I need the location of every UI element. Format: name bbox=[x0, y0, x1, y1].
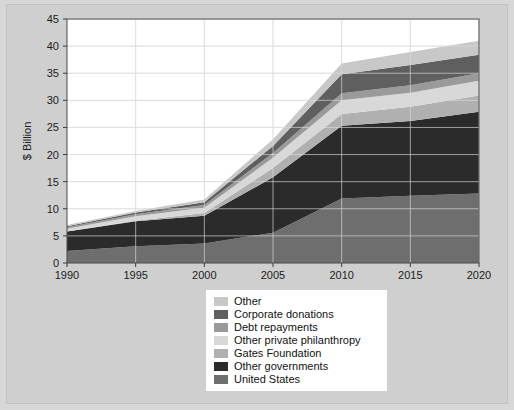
legend-item-label: Corporate donations bbox=[234, 308, 334, 321]
x-tick-label: 2005 bbox=[261, 269, 285, 281]
chart-area: 1990199520002005201020152020 05101520253… bbox=[7, 5, 509, 295]
legend-item-label: Other bbox=[234, 295, 262, 308]
legend-item-label: United States bbox=[234, 373, 300, 386]
legend-item-label: Gates Foundation bbox=[234, 347, 321, 360]
legend-item: Other bbox=[214, 295, 381, 308]
legend-item: United States bbox=[214, 373, 381, 386]
y-tick-label: 20 bbox=[47, 149, 59, 161]
y-tick-label: 25 bbox=[47, 121, 59, 133]
legend-item: Debt repayments bbox=[214, 321, 381, 334]
legend-item: Gates Foundation bbox=[214, 347, 381, 360]
y-tick-label: 15 bbox=[47, 176, 59, 188]
y-tick-label: 45 bbox=[47, 13, 59, 25]
y-tick-label: 0 bbox=[53, 257, 59, 269]
legend-item-label: Other private philanthropy bbox=[234, 334, 361, 347]
y-tick-label: 30 bbox=[47, 94, 59, 106]
x-tick-label: 1995 bbox=[123, 269, 147, 281]
x-axis-ticks: 1990199520002005201020152020 bbox=[55, 263, 491, 281]
legend-swatch-icon bbox=[214, 297, 228, 306]
y-tick-label: 5 bbox=[53, 230, 59, 242]
y-tick-label: 10 bbox=[47, 203, 59, 215]
legend-item-label: Other governments bbox=[234, 360, 328, 373]
x-tick-label: 2010 bbox=[329, 269, 353, 281]
legend-item-label: Debt repayments bbox=[234, 321, 318, 334]
x-tick-label: 1990 bbox=[55, 269, 79, 281]
x-tick-label: 2000 bbox=[192, 269, 216, 281]
legend-item: Other governments bbox=[214, 360, 381, 373]
legend-swatch-icon bbox=[214, 349, 228, 358]
legend-swatch-icon bbox=[214, 323, 228, 332]
legend-swatch-icon bbox=[214, 362, 228, 371]
x-tick-label: 2015 bbox=[398, 269, 422, 281]
x-tick-label: 2020 bbox=[467, 269, 491, 281]
stacked-area-chart: 1990199520002005201020152020 05101520253… bbox=[7, 5, 509, 295]
y-axis-ticks: 051015202530354045 bbox=[47, 13, 67, 269]
y-tick-label: 40 bbox=[47, 40, 59, 52]
legend-swatch-icon bbox=[214, 336, 228, 345]
legend-swatch-icon bbox=[214, 310, 228, 319]
figure-panel: 1990199520002005201020152020 05101520253… bbox=[6, 4, 508, 404]
chart-legend: Other Corporate donations Debt repayment… bbox=[206, 290, 387, 391]
legend-swatch-icon bbox=[214, 375, 228, 384]
legend-item: Other private philanthropy bbox=[214, 334, 381, 347]
legend-item: Corporate donations bbox=[214, 308, 381, 321]
y-tick-label: 35 bbox=[47, 67, 59, 79]
y-axis-title: $ Billion bbox=[21, 122, 33, 161]
